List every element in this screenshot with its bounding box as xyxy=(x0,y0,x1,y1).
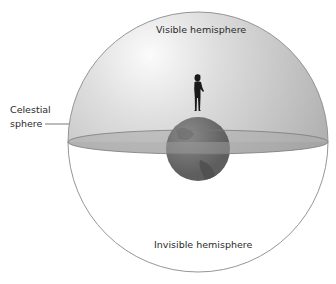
visible-hemisphere-label: Visible hemisphere xyxy=(156,24,246,35)
invisible-hemisphere-label: Invisible hemisphere xyxy=(154,239,253,250)
celestial-sphere-diagram: Visible hemisphere Invisible hemisphere … xyxy=(0,0,336,284)
celestial-sphere-label-line1: Celestial xyxy=(10,104,51,115)
celestial-sphere-label-line2: sphere xyxy=(10,118,43,129)
